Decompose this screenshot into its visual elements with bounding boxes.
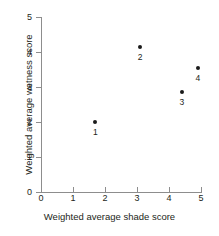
data-point-label: 1 xyxy=(88,128,102,137)
data-point-label: 3 xyxy=(175,98,189,107)
x-tick-label: 5 xyxy=(194,194,208,203)
x-tick-label: 1 xyxy=(66,194,80,203)
scatter-plot-figure: 012345 012345 Weighted average shade sco… xyxy=(0,0,219,236)
x-tick-mark xyxy=(201,187,202,192)
x-tick-label: 4 xyxy=(162,194,176,203)
data-point-label: 4 xyxy=(191,74,205,83)
data-point xyxy=(138,45,142,49)
x-tick-label: 2 xyxy=(98,194,112,203)
x-axis-line xyxy=(41,192,202,193)
x-tick-label: 0 xyxy=(34,194,48,203)
data-point xyxy=(196,66,200,70)
x-tick-label: 3 xyxy=(130,194,144,203)
y-axis-title: Weighted average wetness score xyxy=(23,15,34,195)
data-point-label: 2 xyxy=(133,53,147,62)
x-axis-title: Weighted average shade score xyxy=(0,211,219,222)
